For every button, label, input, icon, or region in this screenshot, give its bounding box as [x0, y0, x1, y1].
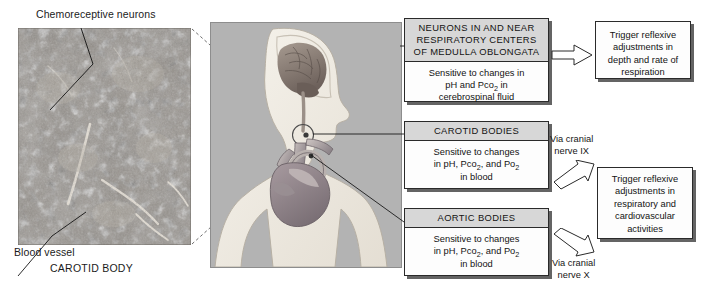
box-aortic-header: AORTIC BODIES — [405, 209, 548, 228]
caption-carotid-body: CAROTID BODY — [50, 262, 133, 274]
arrow-carotid-to-cardiovascular — [552, 160, 598, 190]
box-cardiovascular-effect: Trigger reflexive adjustments in respira… — [597, 167, 693, 239]
body-line-pco2: pH and Pco2 in — [409, 79, 544, 91]
arrow-aortic-to-cardiovascular — [552, 228, 598, 258]
carotid-body-micrograph-panel — [18, 28, 191, 245]
label-chemoreceptive-neurons: Chemoreceptive neurons — [36, 8, 156, 20]
box-carotid-bodies: CAROTID BODIES Sensitive to changes in p… — [404, 121, 549, 189]
body-line-pco2-po2: in pH, Pco2, and Po2 — [409, 158, 544, 170]
torso-head-illustration — [211, 23, 401, 267]
box-medulla-oblongata: NEURONS IN AND NEAR RESPIRATORY CENTERS … — [404, 18, 549, 102]
box-respiration-body: Trigger reflexive adjustments in depth a… — [596, 22, 690, 86]
body-line-pco2-po2-aortic: in pH, Pco2, and Po2 — [409, 245, 544, 257]
cropped-caption-strip — [8, 285, 178, 290]
pathway-label-cranial-nerve-x: Via cranial nerve X — [552, 257, 595, 281]
arrow-medulla-to-respiration — [551, 43, 595, 67]
box-carotid-header: CAROTID BODIES — [405, 122, 548, 141]
box-medulla-header: NEURONS IN AND NEAR RESPIRATORY CENTERS … — [405, 19, 548, 62]
body-anatomy-panel — [210, 22, 402, 268]
box-medulla-body: Sensitive to changes in pH and Pco2 in c… — [405, 62, 548, 109]
box-cardiovascular-body: Trigger reflexive adjustments in respira… — [598, 168, 692, 240]
box-aortic-body: Sensitive to changes in pH, Pco2, and Po… — [405, 228, 548, 275]
box-aortic-bodies: AORTIC BODIES Sensitive to changes in pH… — [404, 208, 549, 276]
pathway-label-cranial-nerve-ix: Via cranial nerve IX — [550, 133, 593, 157]
figure-canvas: Chemoreceptive neurons Blood vessel CARO… — [0, 0, 701, 290]
chemoreceptive-neurons-leader — [0, 6, 158, 146]
box-carotid-body: Sensitive to changes in pH, Pco2, and Po… — [405, 141, 548, 188]
box-respiration-effect: Trigger reflexive adjustments in depth a… — [595, 21, 691, 79]
label-blood-vessel: Blood vessel — [14, 246, 75, 258]
